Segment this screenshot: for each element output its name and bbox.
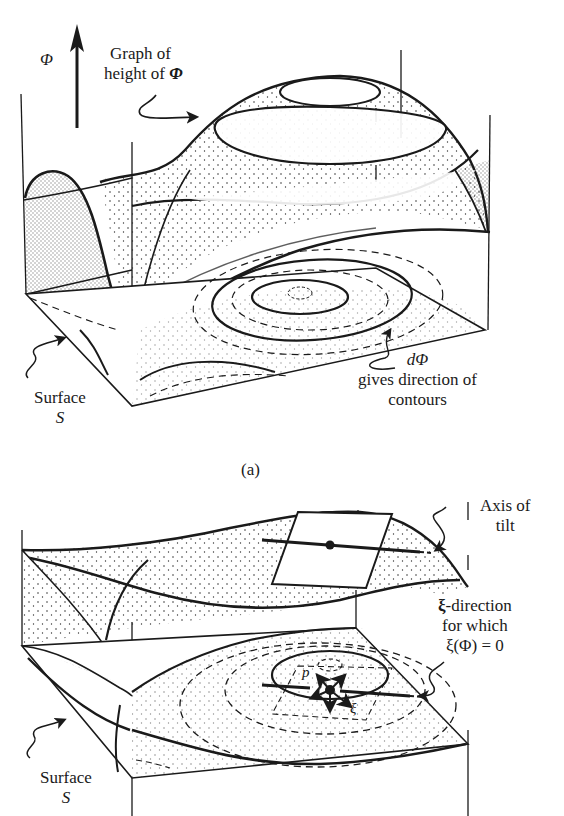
- dphi-contour-label: dΦ gives direction of contours: [358, 350, 477, 410]
- dphi-symbol: dΦ: [358, 350, 477, 370]
- caption-a: (a): [241, 460, 260, 480]
- surface-s-label-a: Surface S: [34, 388, 86, 428]
- surface-label-text: Surface: [40, 768, 92, 788]
- xi-symbol: ξ: [438, 596, 446, 615]
- axis-of-tilt-line1: Axis of: [480, 496, 531, 516]
- graph-label-line2: height of Φ: [104, 64, 183, 84]
- dphi-line1: gives direction of: [358, 370, 477, 390]
- phi-symbol: Φ: [169, 64, 182, 83]
- phi-axis-label: Φ: [40, 50, 53, 70]
- xi-line2: for which: [438, 616, 512, 636]
- xi-line1: ξ-direction: [438, 596, 512, 616]
- dphi-line2: contours: [358, 390, 477, 410]
- axis-of-tilt-line2: tilt: [480, 516, 531, 536]
- graph-label-line1: Graph of: [104, 44, 183, 64]
- surface-symbol: S: [40, 788, 92, 808]
- point-p-label: p: [302, 662, 310, 682]
- xi-line3: ξ(Φ) = 0: [438, 636, 512, 656]
- surface-label-text: Surface: [34, 388, 86, 408]
- panel-a: Φ Graph of height of Φ Surface S dΦ give…: [0, 0, 564, 500]
- axis-of-tilt-label: Axis of tilt: [480, 496, 531, 536]
- surface-s-label-b: Surface S: [40, 768, 92, 808]
- panel-b: Axis of tilt ξ-direction for which ξ(Φ) …: [0, 500, 564, 816]
- surface-symbol: S: [34, 408, 86, 428]
- phi-axis-arrow-icon: [70, 24, 84, 128]
- xi-direction-label: ξ-direction for which ξ(Φ) = 0: [438, 596, 512, 656]
- xi-vector-label: ξ: [350, 698, 356, 718]
- graph-of-height-label: Graph of height of Φ: [104, 44, 183, 84]
